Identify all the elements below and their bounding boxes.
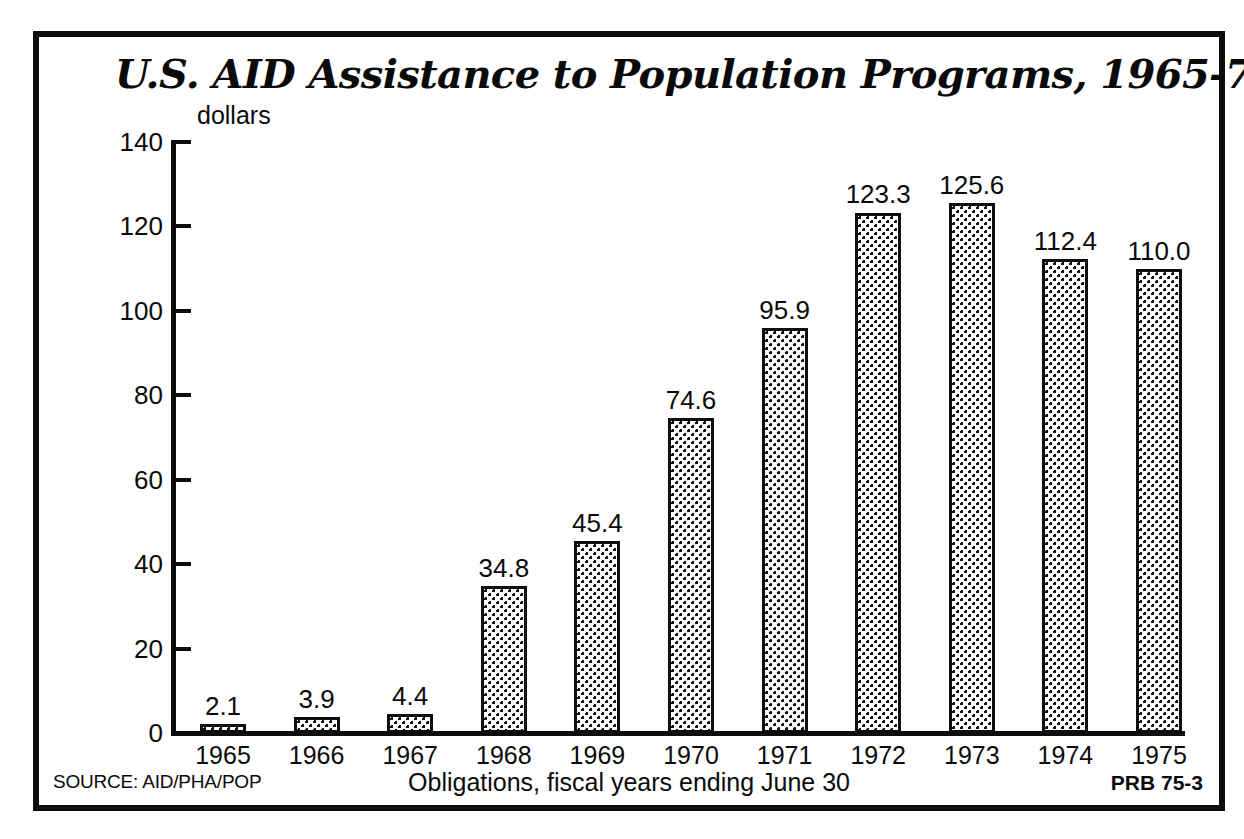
- y-axis-tick-label: 100: [53, 298, 163, 324]
- bar[interactable]: [294, 717, 340, 733]
- bar[interactable]: [855, 213, 901, 734]
- bar[interactable]: [762, 328, 808, 733]
- y-axis-tick: [176, 731, 191, 735]
- bar-group[interactable]: 34.81968: [481, 37, 527, 733]
- bar-group[interactable]: 3.91966: [294, 37, 340, 733]
- y-axis-tick-label: 40: [53, 551, 163, 577]
- plot-area: 020406080100120140 2.119653.919664.41967…: [39, 37, 1219, 805]
- y-axis-tick-label: 0: [53, 720, 163, 746]
- chart-footer: SOURCE: AID/PHA/POP Obligations, fiscal …: [39, 765, 1219, 805]
- bar-group[interactable]: 125.61973: [949, 37, 995, 733]
- y-axis-tick: [176, 224, 191, 228]
- bar-group[interactable]: 2.11965: [200, 37, 246, 733]
- y-axis-tick-label-wrap: 80: [39, 382, 163, 408]
- bar[interactable]: [1042, 259, 1088, 733]
- bar-group[interactable]: 45.41969: [574, 37, 620, 733]
- y-axis-tick-label-wrap: 20: [39, 636, 163, 662]
- y-axis-tick-label: 80: [53, 382, 163, 408]
- bar[interactable]: [387, 714, 433, 733]
- y-axis-tick-label: 20: [53, 636, 163, 662]
- footer-publication-code: PRB 75-3: [1111, 768, 1203, 798]
- y-axis-tick: [176, 647, 191, 651]
- footer-note: Obligations, fiscal years ending June 30: [39, 765, 1219, 799]
- bar-group[interactable]: 74.61970: [668, 37, 714, 733]
- bar-value-label: 95.9: [740, 296, 830, 324]
- bar-value-label: 34.8: [459, 554, 549, 582]
- bar-value-label: 125.6: [927, 171, 1017, 199]
- y-axis-tick-label: 120: [53, 213, 163, 239]
- bar-value-label: 112.4: [1020, 227, 1110, 255]
- chart-frame: U.S. AID Assistance to Population Progra…: [33, 31, 1225, 811]
- y-axis-tick-label-wrap: 0: [39, 720, 163, 746]
- bar-group[interactable]: 123.31972: [855, 37, 901, 733]
- bar-value-label: 123.3: [833, 180, 923, 208]
- y-axis-tick-label-wrap: 140: [39, 129, 163, 155]
- bar-group[interactable]: 112.41974: [1042, 37, 1088, 733]
- bar[interactable]: [200, 724, 246, 733]
- bar-value-label: 45.4: [552, 509, 642, 537]
- y-axis-tick-label-wrap: 100: [39, 298, 163, 324]
- bar-value-label: 2.1: [178, 692, 268, 720]
- bar-value-label: 110.0: [1114, 237, 1204, 265]
- y-axis-tick-label: 140: [53, 129, 163, 155]
- y-axis-tick-label-wrap: 40: [39, 551, 163, 577]
- y-axis-tick: [176, 140, 191, 144]
- y-axis-tick: [176, 562, 191, 566]
- bar[interactable]: [668, 418, 714, 733]
- bar-value-label: 4.4: [365, 682, 455, 710]
- y-axis-tick-label: 60: [53, 467, 163, 493]
- y-axis-tick-label-wrap: 120: [39, 213, 163, 239]
- bar[interactable]: [949, 203, 995, 733]
- bar[interactable]: [481, 586, 527, 733]
- y-axis-tick-label-wrap: 60: [39, 467, 163, 493]
- y-axis-tick: [176, 309, 191, 313]
- bar-group[interactable]: 4.41967: [387, 37, 433, 733]
- bar-value-label: 3.9: [272, 685, 362, 713]
- bar-group[interactable]: 95.91971: [762, 37, 808, 733]
- bar[interactable]: [574, 541, 620, 733]
- bar[interactable]: [1136, 269, 1182, 733]
- bar-group[interactable]: 110.01975: [1136, 37, 1182, 733]
- y-axis-tick: [176, 478, 191, 482]
- y-axis-tick: [176, 393, 191, 397]
- bar-value-label: 74.6: [646, 386, 736, 414]
